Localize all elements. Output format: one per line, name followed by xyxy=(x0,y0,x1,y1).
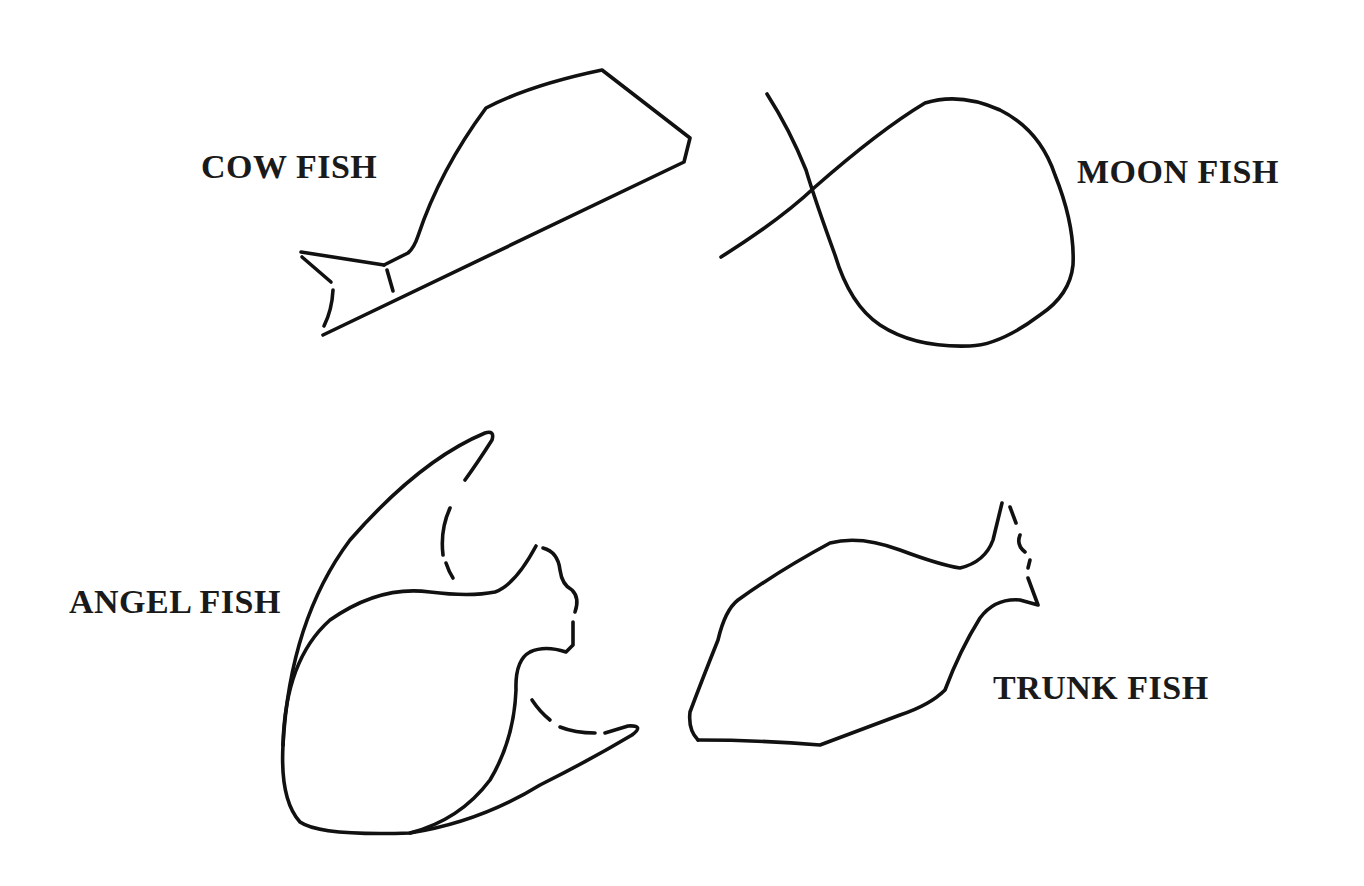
fish-drawings xyxy=(0,0,1364,886)
trunk-fish-label: TRUNK FISH xyxy=(993,671,1209,705)
angel-fish-drawing xyxy=(283,432,638,833)
moon-fish-drawing xyxy=(721,94,1073,346)
trunk-fish-drawing xyxy=(690,503,1038,745)
cow-fish-label: COW FISH xyxy=(201,150,377,184)
moon-fish-label: MOON FISH xyxy=(1077,155,1279,189)
cow-fish-drawing xyxy=(301,70,690,335)
fish-diagram: COW FISH MOON FISH ANGEL FISH TRUNK FISH xyxy=(0,0,1364,886)
angel-fish-label: ANGEL FISH xyxy=(69,585,281,619)
